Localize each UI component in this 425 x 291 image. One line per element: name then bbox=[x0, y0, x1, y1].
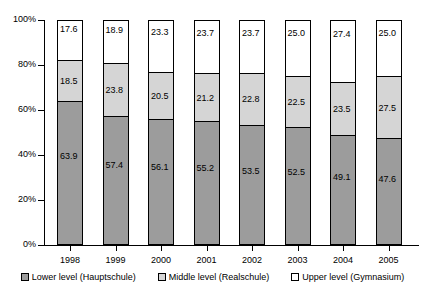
bar-segment-2005-upper: 25.0 bbox=[376, 20, 402, 76]
y-axis-labels: 0%20%40%60%80%100% bbox=[0, 0, 36, 291]
bar-segment-1998-lower: 63.9 bbox=[57, 101, 83, 245]
bar-segment-2000-middle: 20.5 bbox=[148, 72, 174, 118]
bar-value-label: 23.8 bbox=[106, 85, 124, 94]
bar-group-1998: 17.618.563.9 bbox=[57, 20, 83, 245]
bar-value-label: 21.2 bbox=[197, 93, 215, 102]
x-axis-label-2002: 2002 bbox=[232, 255, 272, 265]
bar-segment-2000-upper: 23.3 bbox=[148, 20, 174, 72]
bar-value-label: 20.5 bbox=[151, 91, 169, 100]
legend-swatch-icon bbox=[158, 273, 166, 281]
plot-area: 17.618.563.918.923.857.423.320.556.123.7… bbox=[44, 20, 418, 245]
bar-value-label: 63.9 bbox=[60, 152, 78, 161]
bar-segment-1999-lower: 57.4 bbox=[103, 116, 129, 245]
bar-segment-2005-lower: 47.6 bbox=[376, 138, 402, 245]
bar-value-label: 55.2 bbox=[197, 164, 215, 173]
bar-segment-2005-middle: 27.5 bbox=[376, 76, 402, 138]
legend-label: Middle level (Realschule) bbox=[169, 272, 270, 282]
bar-segment-2002-middle: 22.8 bbox=[239, 73, 265, 124]
bar-segment-2003-upper: 25.0 bbox=[285, 20, 311, 76]
bar-value-label: 23.7 bbox=[197, 28, 215, 37]
legend-swatch-icon bbox=[291, 273, 299, 281]
bar-segment-2003-middle: 22.5 bbox=[285, 76, 311, 127]
bar-segment-2000-lower: 56.1 bbox=[148, 119, 174, 245]
y-axis-tick bbox=[38, 200, 44, 201]
bar-value-label: 18.9 bbox=[106, 26, 124, 35]
bar-segment-1998-middle: 18.5 bbox=[57, 60, 83, 102]
x-axis-tick bbox=[161, 246, 162, 251]
bar-segment-2004-middle: 23.5 bbox=[330, 82, 356, 135]
bar-segment-1999-upper: 18.9 bbox=[103, 20, 129, 63]
bar-value-label: 22.8 bbox=[242, 95, 260, 104]
x-axis-label-1999: 1999 bbox=[96, 255, 136, 265]
bar-segment-2002-upper: 23.7 bbox=[239, 20, 265, 73]
bar-value-label: 25.0 bbox=[288, 29, 306, 38]
bar-segment-2002-lower: 53.5 bbox=[239, 125, 265, 245]
bar-segment-2004-upper: 27.4 bbox=[330, 20, 356, 82]
bar-group-2000: 23.320.556.1 bbox=[148, 20, 174, 245]
x-axis-label-2005: 2005 bbox=[369, 255, 409, 265]
bar-value-label: 18.5 bbox=[60, 76, 78, 85]
x-axis-tick bbox=[298, 246, 299, 251]
x-axis-tick bbox=[389, 246, 390, 251]
chart-legend: Lower level (Hauptschule)Middle level (R… bbox=[0, 272, 425, 282]
x-axis-label-2003: 2003 bbox=[278, 255, 318, 265]
x-axis-tick bbox=[343, 246, 344, 251]
bar-group-1999: 18.923.857.4 bbox=[103, 20, 129, 245]
x-axis-tick bbox=[207, 246, 208, 251]
bar-value-label: 23.5 bbox=[333, 104, 351, 113]
bar-value-label: 57.4 bbox=[106, 161, 124, 170]
bar-group-2001: 23.721.255.2 bbox=[194, 20, 220, 245]
x-axis-label-2004: 2004 bbox=[323, 255, 363, 265]
y-axis-tick-label: 20% bbox=[0, 195, 36, 204]
y-axis-tick bbox=[38, 110, 44, 111]
y-axis-tick-label: 60% bbox=[0, 105, 36, 114]
y-axis-tick bbox=[38, 20, 44, 21]
bar-value-label: 25.0 bbox=[379, 29, 397, 38]
stacked-bar-chart: 0%20%40%60%80%100% 17.618.563.918.923.85… bbox=[0, 0, 425, 291]
x-axis-label-1998: 1998 bbox=[50, 255, 90, 265]
bar-group-2005: 25.027.547.6 bbox=[376, 20, 402, 245]
legend-label: Upper level (Gymnasium) bbox=[302, 272, 404, 282]
bar-segment-2001-upper: 23.7 bbox=[194, 20, 220, 73]
x-axis-label-2001: 2001 bbox=[187, 255, 227, 265]
y-axis-tick bbox=[38, 65, 44, 66]
x-axis-tick bbox=[70, 246, 71, 251]
x-axis-line bbox=[44, 245, 419, 246]
y-axis-tick-label: 40% bbox=[0, 150, 36, 159]
bar-value-label: 53.5 bbox=[242, 166, 260, 175]
bar-value-label: 22.5 bbox=[288, 98, 306, 107]
bar-value-label: 47.6 bbox=[379, 175, 397, 184]
bar-value-label: 27.5 bbox=[379, 103, 397, 112]
y-axis-tick bbox=[38, 245, 44, 246]
bar-segment-1999-middle: 23.8 bbox=[103, 63, 129, 117]
bar-value-label: 23.7 bbox=[242, 28, 260, 37]
bar-segment-2003-lower: 52.5 bbox=[285, 127, 311, 245]
bar-group-2002: 23.722.853.5 bbox=[239, 20, 265, 245]
bar-value-label: 49.1 bbox=[333, 172, 351, 181]
bar-segment-1998-upper: 17.6 bbox=[57, 20, 83, 60]
bar-segment-2001-lower: 55.2 bbox=[194, 121, 220, 245]
legend-item-lower[interactable]: Lower level (Hauptschule) bbox=[21, 272, 136, 282]
bar-segment-2001-middle: 21.2 bbox=[194, 73, 220, 121]
legend-swatch-icon bbox=[21, 273, 29, 281]
bar-value-label: 23.3 bbox=[151, 28, 169, 37]
bar-value-label: 56.1 bbox=[151, 162, 169, 171]
legend-label: Lower level (Hauptschule) bbox=[32, 272, 136, 282]
y-axis-tick-label: 0% bbox=[0, 240, 36, 249]
bar-value-label: 17.6 bbox=[60, 25, 78, 34]
y-axis-tick-label: 80% bbox=[0, 60, 36, 69]
x-axis-tick bbox=[116, 246, 117, 251]
y-axis-tick-label: 100% bbox=[0, 15, 36, 24]
x-axis-label-2000: 2000 bbox=[141, 255, 181, 265]
bar-value-label: 52.5 bbox=[288, 168, 306, 177]
bar-segment-2004-lower: 49.1 bbox=[330, 135, 356, 245]
bar-group-2004: 27.423.549.1 bbox=[330, 20, 356, 245]
bar-value-label: 27.4 bbox=[333, 30, 351, 39]
legend-item-middle[interactable]: Middle level (Realschule) bbox=[158, 272, 270, 282]
legend-item-upper[interactable]: Upper level (Gymnasium) bbox=[291, 272, 404, 282]
bar-group-2003: 25.022.552.5 bbox=[285, 20, 311, 245]
x-axis-tick bbox=[252, 246, 253, 251]
y-axis-tick bbox=[38, 155, 44, 156]
